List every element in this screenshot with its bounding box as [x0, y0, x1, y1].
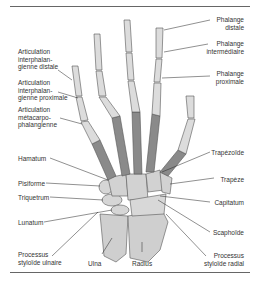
label-capitatum: Capitatum	[214, 199, 244, 207]
label-trapezoide: Trapézoïde	[211, 149, 244, 157]
label-phalange-intermediaire: Phalange intermédiaire	[206, 40, 244, 55]
label-lunatum: Lunatum	[18, 219, 43, 227]
label-pisiforme: Pisiforme	[18, 180, 45, 188]
label-ulna: Ulna	[88, 260, 101, 268]
label-phalange-proximale: Phalange proximale	[216, 70, 244, 85]
label-processus-styloide-ulnaire: Processus styloïde ulnaire	[18, 251, 62, 266]
label-articulation-interphalangienne-proximale: Articulation interphalan- gienne proxima…	[18, 79, 68, 102]
label-articulation-interphalangienne-distale: Articulation interphalan- gienne distale	[18, 48, 58, 71]
lunatum-bone	[111, 205, 129, 215]
ulna-bone	[100, 214, 128, 262]
label-phalange-distale: Phalange distale	[217, 16, 244, 31]
radius-bone	[128, 210, 168, 262]
label-triquetrum: Triquetrum	[18, 194, 49, 202]
label-hamatum: Hamatum	[18, 155, 46, 163]
label-scaphoide: Scaphoïde	[213, 229, 244, 237]
label-trapeze: Trapèze	[220, 176, 244, 184]
label-processus-styloide-radial: Processus styloïde radial	[204, 252, 244, 267]
label-radius: Radius	[132, 260, 152, 268]
label-articulation-metacarpophalangienne: Articulation métacarpo- phalangienne	[18, 106, 57, 129]
capitatum-bone	[126, 174, 148, 200]
